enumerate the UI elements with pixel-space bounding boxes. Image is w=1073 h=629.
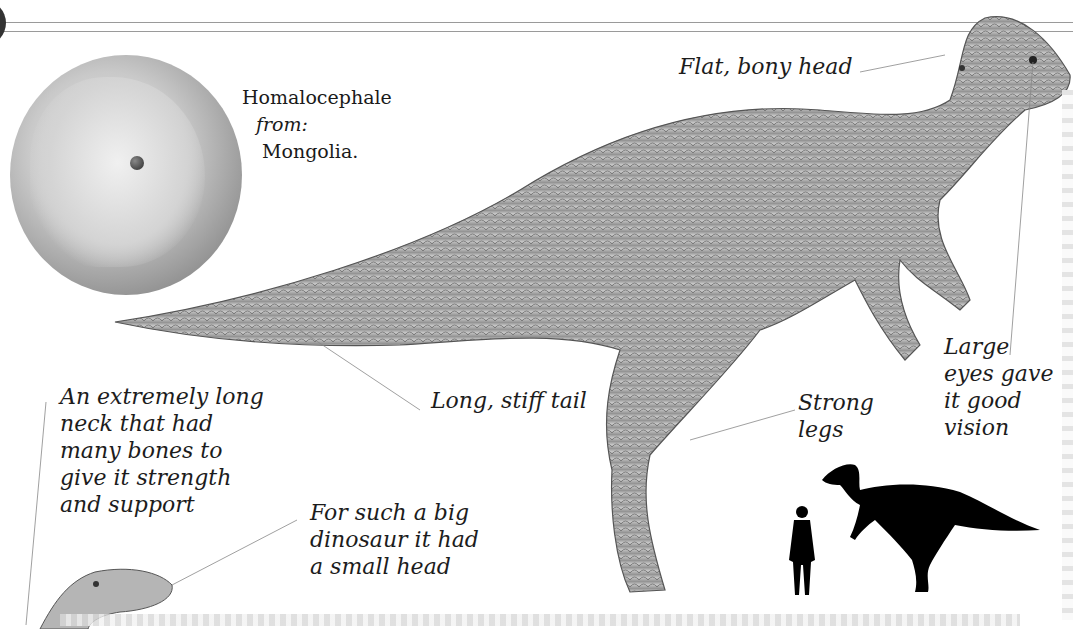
leader-small-head — [172, 520, 297, 585]
bottom-texture-strip — [60, 614, 1020, 626]
leader-neck — [26, 402, 46, 625]
label-small-head: For such a big dinosaur it had a small h… — [310, 499, 479, 580]
right-page-edge — [1062, 90, 1073, 620]
label-strong-legs: Strong legs — [798, 389, 874, 443]
leader-legs — [690, 410, 795, 440]
label-long-neck: An extremely long neck that had many bon… — [60, 383, 264, 518]
human-silhouette-icon — [789, 506, 815, 595]
label-long-stiff-tail: Long, stiff tail — [431, 387, 587, 414]
leader-head — [860, 55, 945, 72]
homalocephale-illustration — [0, 0, 1073, 629]
dinosaur-silhouette-icon — [822, 464, 1040, 592]
label-large-eyes: Large eyes gave it good vision — [944, 333, 1053, 441]
label-flat-bony-head: Flat, bony head — [679, 53, 853, 80]
